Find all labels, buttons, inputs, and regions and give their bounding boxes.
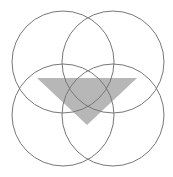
shaded-triangle: [37, 78, 137, 125]
venn-diagram: [0, 0, 173, 177]
